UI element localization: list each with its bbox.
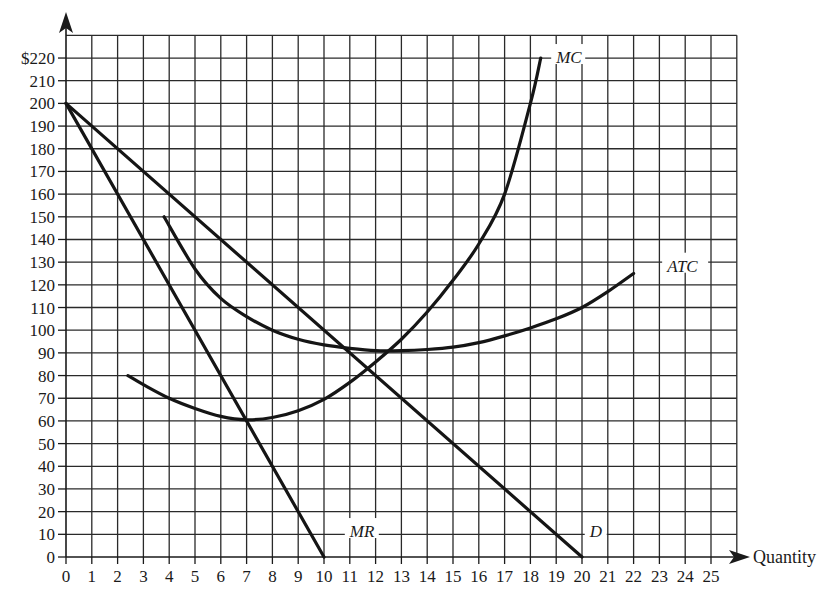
grid-lines	[66, 35, 737, 557]
y-tick-label: 40	[38, 457, 55, 476]
y-tick-label: 160	[30, 185, 56, 204]
x-tick-label: 14	[419, 567, 437, 586]
x-tick-label: 18	[522, 567, 539, 586]
x-tick-label: 19	[548, 567, 565, 586]
cost-revenue-chart: 0123456789101112131415161718192021222324…	[0, 0, 828, 591]
y-tick-label: 60	[38, 412, 55, 431]
y-tick-label: 10	[38, 525, 55, 544]
y-tick-label: 120	[30, 276, 56, 295]
x-tick-label: 15	[445, 567, 462, 586]
y-tick-label: 110	[30, 299, 55, 318]
x-tick-label: 11	[342, 567, 358, 586]
x-tick-label: 23	[651, 567, 668, 586]
chart-canvas: 0123456789101112131415161718192021222324…	[0, 0, 828, 591]
x-tick-label: 12	[367, 567, 384, 586]
y-tick-label: 150	[30, 208, 56, 227]
y-tick-label: 70	[38, 389, 55, 408]
x-tick-label: 5	[191, 567, 200, 586]
x-tick-label: 7	[242, 567, 251, 586]
x-tick-label: 13	[393, 567, 410, 586]
y-tick-label: 30	[38, 480, 55, 499]
y-tick-label: 180	[30, 140, 56, 159]
y-tick-label: $220	[21, 49, 55, 68]
y-tick-label: 0	[47, 548, 56, 567]
x-tick-label: 1	[88, 567, 97, 586]
x-tick-label: 2	[113, 567, 122, 586]
x-tick-label: 17	[496, 567, 514, 586]
x-tick-label: 8	[268, 567, 277, 586]
y-tick-label: 130	[30, 253, 56, 272]
y-tick-label: 50	[38, 435, 55, 454]
curve-label-atc: ATC	[666, 257, 698, 276]
y-tick-label: 190	[30, 117, 56, 136]
y-axis-tick-labels: 0102030405060708090100110120130140150160…	[21, 49, 55, 567]
x-tick-label: 20	[574, 567, 591, 586]
y-tick-label: 100	[30, 321, 56, 340]
x-axis-title: Quantity	[753, 547, 816, 567]
y-tick-label: 140	[30, 230, 56, 249]
y-tick-label: 170	[30, 162, 56, 181]
x-tick-label: 24	[677, 567, 695, 586]
y-tick-label: 200	[30, 94, 56, 113]
y-tick-label: 80	[38, 367, 55, 386]
curve-label-mc: MC	[555, 48, 582, 67]
curve-label-mr: MR	[349, 522, 375, 541]
x-tick-label: 21	[599, 567, 616, 586]
x-tick-label: 3	[139, 567, 148, 586]
x-tick-label: 22	[625, 567, 642, 586]
curve-label-d: D	[589, 522, 603, 541]
x-tick-label: 0	[62, 567, 71, 586]
x-tick-label: 4	[165, 567, 174, 586]
y-tick-label: 210	[30, 72, 56, 91]
x-axis-tick-labels: 0123456789101112131415161718192021222324…	[62, 567, 720, 586]
x-tick-label: 10	[316, 567, 333, 586]
x-tick-label: 9	[294, 567, 303, 586]
x-tick-label: 25	[703, 567, 720, 586]
x-tick-label: 16	[470, 567, 487, 586]
y-tick-label: 20	[38, 503, 55, 522]
y-tick-label: 90	[38, 344, 55, 363]
x-tick-label: 6	[217, 567, 226, 586]
